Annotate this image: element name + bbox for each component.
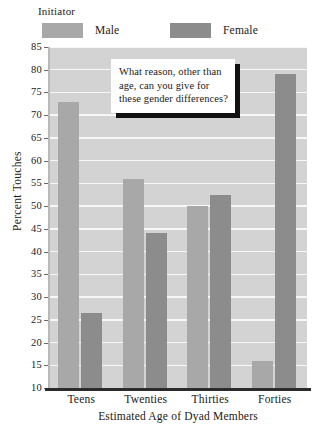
legend-label-female: Female: [223, 24, 258, 36]
legend-row: Male Female: [38, 21, 308, 39]
y-tick-15: 15: [18, 360, 42, 371]
chart-legend: Initiator Male Female: [38, 5, 308, 39]
legend-swatch-female-icon: [170, 23, 211, 38]
legend-swatch-male-icon: [42, 23, 83, 38]
y-tick-10: 10: [18, 383, 42, 394]
y-tick-70: 70: [18, 110, 42, 121]
y-tick-35: 35: [18, 269, 42, 280]
y-axis-line: [48, 47, 50, 388]
gridline: [49, 296, 307, 298]
callout-line-1: What reason, other than: [119, 65, 228, 79]
bar-twenties-male: [123, 179, 144, 388]
bar-forties-female: [275, 74, 296, 388]
gridline: [49, 274, 307, 276]
bar-teens-female: [81, 313, 102, 388]
bar-twenties-female: [146, 233, 167, 388]
y-tick-40: 40: [18, 247, 42, 258]
gridline: [49, 228, 307, 230]
legend-entry-male: Male: [42, 21, 119, 39]
gridline: [49, 205, 307, 207]
gridline: [49, 183, 307, 185]
y-tick-75: 75: [18, 87, 42, 98]
x-tick-teens: Teens: [46, 393, 116, 405]
callout-line-3: these gender differences?: [119, 92, 228, 106]
x-axis-line: [45, 388, 311, 391]
gridline: [49, 137, 307, 139]
y-tick-20: 20: [18, 338, 42, 349]
legend-entry-female: Female: [170, 21, 258, 39]
gridline: [49, 251, 307, 253]
bar-forties-male: [252, 361, 273, 388]
bar-thirties-female: [210, 195, 231, 388]
y-tick-25: 25: [18, 315, 42, 326]
bar-chart-figure: Initiator Male Female 858075706560555045…: [0, 0, 315, 430]
legend-title: Initiator: [38, 5, 308, 18]
y-tick-85: 85: [18, 42, 42, 53]
callout-line-2: age, can you give for: [119, 79, 228, 93]
gridline: [49, 47, 307, 48]
callout-box: What reason, other thanage, can you give…: [111, 59, 235, 113]
bar-teens-male: [58, 102, 79, 388]
y-axis-label: Percent Touches: [11, 136, 23, 246]
gridline: [49, 160, 307, 162]
x-tick-thirties: Thirties: [175, 393, 245, 405]
x-tick-forties: Forties: [240, 393, 310, 405]
y-tick-80: 80: [18, 65, 42, 76]
x-axis-label: Estimated Age of Dyad Members: [49, 410, 307, 422]
y-tick-30: 30: [18, 292, 42, 303]
legend-label-male: Male: [95, 24, 119, 36]
bar-thirties-male: [187, 206, 208, 388]
x-tick-twenties: Twenties: [111, 393, 181, 405]
